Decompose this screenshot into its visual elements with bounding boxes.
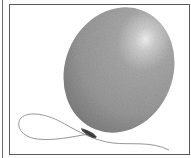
balloon-body bbox=[45, 4, 190, 150]
previous-panel-edge bbox=[0, 0, 3, 158]
balloon-illustration bbox=[9, 4, 190, 155]
image-frame bbox=[9, 4, 190, 155]
